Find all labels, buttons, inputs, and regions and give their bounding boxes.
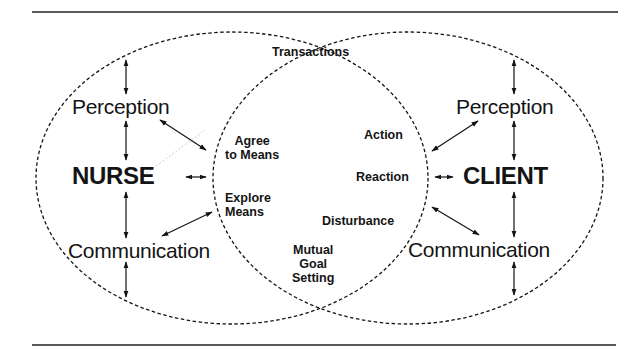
mutual-goal-setting-label: Mutual Goal Setting — [292, 243, 334, 285]
client-communication-label: Communication — [408, 239, 550, 260]
action-label: Action — [364, 128, 403, 142]
client-arrow-perception-action — [432, 121, 478, 151]
goal-line: Goal — [292, 257, 334, 271]
client-perception-label: Perception — [456, 96, 553, 117]
client-label: CLIENT — [463, 164, 548, 188]
disturbance-label: Disturbance — [322, 214, 394, 228]
reaction-label: Reaction — [356, 170, 409, 184]
nurse-label: NURSE — [72, 164, 155, 188]
explore-line-1: Explore — [225, 191, 271, 205]
nurse-perception-label: Perception — [72, 96, 169, 117]
agree-to-means-label: Agree to Means — [225, 134, 279, 162]
explore-means-label: Explore Means — [225, 191, 271, 219]
setting-line: Setting — [292, 271, 334, 285]
explore-line-2: Means — [225, 205, 271, 219]
transactions-label: Transactions — [272, 45, 349, 59]
mutual-line: Mutual — [292, 243, 334, 257]
nurse-arrow-perception-agree — [160, 120, 206, 150]
client-arrow-disturbance-communication — [432, 207, 479, 235]
nurse-communication-label: Communication — [68, 240, 210, 261]
agree-line-2: to Means — [225, 148, 279, 162]
agree-line-1: Agree — [225, 134, 279, 148]
nurse-arrow-communication-explore — [162, 212, 212, 236]
